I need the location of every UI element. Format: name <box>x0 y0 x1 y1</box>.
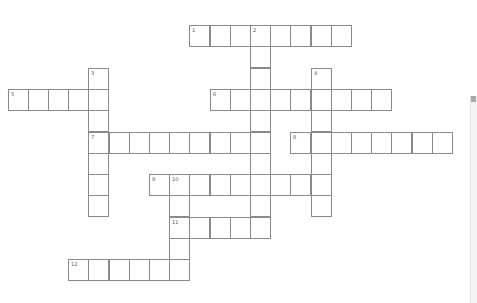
crossword-cell[interactable] <box>250 68 271 90</box>
crossword-cell[interactable] <box>48 89 69 111</box>
crossword-cell[interactable] <box>189 174 210 196</box>
crossword-cell[interactable] <box>88 259 109 281</box>
clue-number: 8 <box>293 134 296 140</box>
side-panel <box>470 96 477 303</box>
crossword-cell[interactable]: 1 <box>189 25 210 47</box>
clue-number: 11 <box>172 219 178 225</box>
crossword-cell[interactable] <box>412 132 433 154</box>
crossword-cell[interactable]: 8 <box>290 132 311 154</box>
crossword-cell[interactable] <box>250 174 271 196</box>
clue-number: 1 <box>192 27 195 33</box>
crossword-cell[interactable] <box>129 259 150 281</box>
crossword-cell[interactable] <box>311 195 332 217</box>
crossword-cell[interactable]: 7 <box>88 132 109 154</box>
crossword-cell[interactable] <box>391 132 412 154</box>
crossword-cell[interactable] <box>311 174 332 196</box>
crossword-cell[interactable] <box>88 89 109 111</box>
crossword-cell[interactable]: 5 <box>8 89 29 111</box>
crossword-cell[interactable] <box>88 174 109 196</box>
clue-number: 3 <box>91 70 94 76</box>
clue-number: 7 <box>91 134 94 140</box>
crossword-cell[interactable] <box>149 259 170 281</box>
crossword-cell[interactable] <box>331 25 352 47</box>
crossword-cell[interactable]: 10 <box>169 174 190 196</box>
crossword-cell[interactable] <box>28 89 49 111</box>
crossword-cell[interactable] <box>351 89 372 111</box>
crossword-cell[interactable]: 12 <box>68 259 89 281</box>
crossword-cell[interactable] <box>270 25 291 47</box>
crossword-cell[interactable] <box>290 174 311 196</box>
crossword-cell[interactable] <box>311 89 332 111</box>
crossword-cell[interactable] <box>311 132 332 154</box>
crossword-cell[interactable]: 4 <box>311 68 332 90</box>
crossword-cell[interactable] <box>230 217 251 239</box>
crossword-cell[interactable] <box>311 153 332 175</box>
crossword-cell[interactable] <box>149 132 170 154</box>
crossword-cell[interactable] <box>250 217 271 239</box>
crossword-cell[interactable] <box>371 132 392 154</box>
crossword-cell[interactable] <box>230 25 251 47</box>
crossword-cell[interactable] <box>169 195 190 217</box>
crossword-cell[interactable] <box>250 110 271 132</box>
crossword-cell[interactable] <box>290 25 311 47</box>
crossword-cell[interactable] <box>432 132 453 154</box>
crossword-cell[interactable] <box>250 89 271 111</box>
crossword-cell[interactable] <box>290 89 311 111</box>
crossword-cell[interactable] <box>250 132 271 154</box>
crossword-cell[interactable] <box>250 46 271 68</box>
crossword-cell[interactable] <box>189 132 210 154</box>
crossword-cell[interactable]: 9 <box>149 174 170 196</box>
crossword-cell[interactable] <box>270 89 291 111</box>
crossword-cell[interactable] <box>68 89 89 111</box>
crossword-cell[interactable] <box>250 195 271 217</box>
crossword-cell[interactable]: 11 <box>169 217 190 239</box>
crossword-cell[interactable] <box>210 132 231 154</box>
clue-number: 6 <box>213 91 216 97</box>
crossword-cell[interactable] <box>88 110 109 132</box>
crossword-cell[interactable] <box>230 132 251 154</box>
crossword-cell[interactable] <box>311 25 332 47</box>
clue-number: 10 <box>172 176 178 182</box>
crossword-cell[interactable] <box>371 89 392 111</box>
crossword-cell[interactable]: 3 <box>88 68 109 90</box>
crossword-cell[interactable] <box>230 89 251 111</box>
crossword-cell[interactable] <box>210 174 231 196</box>
crossword-cell[interactable] <box>109 132 130 154</box>
crossword-cell[interactable] <box>210 217 231 239</box>
crossword-cell[interactable]: 2 <box>250 25 271 47</box>
crossword-cell[interactable]: 6 <box>210 89 231 111</box>
crossword-cell[interactable] <box>129 132 150 154</box>
crossword-cell[interactable] <box>331 89 352 111</box>
crossword-cell[interactable] <box>169 259 190 281</box>
crossword-cell[interactable] <box>210 25 231 47</box>
clue-number: 2 <box>253 27 256 33</box>
crossword-cell[interactable] <box>230 174 251 196</box>
crossword-cell[interactable] <box>169 238 190 260</box>
crossword-cell[interactable] <box>250 153 271 175</box>
crossword-cell[interactable] <box>270 174 291 196</box>
clue-number: 5 <box>11 91 14 97</box>
crossword-cell[interactable] <box>109 259 130 281</box>
clue-number: 4 <box>314 70 317 76</box>
crossword-cell[interactable] <box>88 195 109 217</box>
scrollbar-thumb[interactable] <box>471 96 476 102</box>
clue-number: 9 <box>152 176 155 182</box>
crossword-cell[interactable] <box>351 132 372 154</box>
crossword-cell[interactable] <box>331 132 352 154</box>
clue-number: 12 <box>71 261 77 267</box>
crossword-cell[interactable] <box>189 217 210 239</box>
crossword-cell[interactable] <box>88 153 109 175</box>
crossword-cell[interactable] <box>311 110 332 132</box>
crossword-cell[interactable] <box>169 132 190 154</box>
